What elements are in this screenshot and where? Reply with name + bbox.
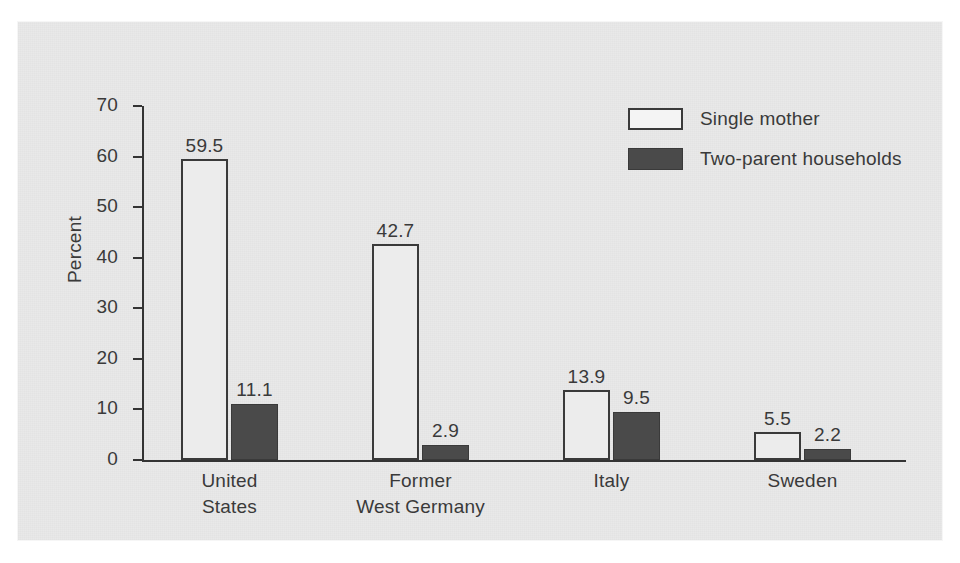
y-tick-label: 70 [96,94,118,116]
legend-label: Single mother [700,106,820,132]
y-tick: 40 [133,257,142,259]
legend-label: Two-parent households [700,146,902,172]
bar-value-label: 5.5 [764,408,791,430]
y-tick: 60 [133,156,142,158]
chart-figure: Percent 010203040506070 59.511.1UnitedSt… [0,0,960,563]
bar: 59.5 [181,159,228,460]
y-tick-label: 50 [96,195,118,217]
y-tick: 70 [133,105,142,107]
bar: 5.5 [754,432,801,460]
x-axis-line [142,460,906,462]
bar-value-label: 59.5 [186,135,224,157]
chart-panel: Percent 010203040506070 59.511.1UnitedSt… [18,22,942,540]
y-axis-line [142,106,144,460]
bar-value-label: 9.5 [623,387,650,409]
y-tick-label: 20 [96,347,118,369]
bar-value-label: 11.1 [236,379,272,401]
bar: 2.9 [422,445,469,460]
bar-value-label: 2.2 [814,424,841,446]
legend-swatch [628,148,683,170]
x-category-label: Italy [594,468,630,494]
y-tick: 50 [133,206,142,208]
bar: 42.7 [372,244,419,460]
x-category-label: UnitedStates [201,468,257,520]
y-axis-title: Percent [64,216,86,283]
y-tick: 10 [133,408,142,410]
bar-group: 59.511.1UnitedStates [181,106,278,460]
bar-value-label: 42.7 [377,220,415,242]
bar-value-label: 13.9 [568,366,606,388]
y-tick-label: 30 [96,296,118,318]
bar: 11.1 [231,404,278,460]
y-tick-label: 10 [96,397,118,419]
y-tick-label: 0 [107,448,118,470]
y-tick-label: 60 [96,145,118,167]
y-tick: 20 [133,358,142,360]
x-category-label: Sweden [768,468,838,494]
bar: 13.9 [563,390,610,460]
legend-swatch [628,108,683,130]
x-category-label: FormerWest Germany [356,468,485,520]
y-tick: 30 [133,307,142,309]
y-tick: 0 [133,459,142,461]
bar-group: 42.72.9FormerWest Germany [372,106,469,460]
bar-value-label: 2.9 [432,420,459,442]
y-tick-label: 40 [96,246,118,268]
bar: 2.2 [804,449,851,460]
bar: 9.5 [613,412,660,460]
